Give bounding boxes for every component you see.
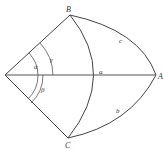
label-side-b: b [116, 107, 120, 115]
label-C: C [65, 141, 71, 150]
label-angle-alpha: α [34, 63, 38, 71]
side-b-arc [68, 75, 156, 138]
side-c-arc [70, 15, 156, 75]
label-side-c: c [119, 37, 123, 45]
label-angle-beta: β [40, 86, 45, 94]
angle-beta-arc-inner [28, 75, 38, 99]
label-A: A [157, 72, 163, 81]
spherical-triangle-diagram: B A C a b c α γ β [0, 0, 163, 151]
diagram-svg: B A C a b c α γ β [0, 0, 163, 151]
label-angle-gamma: γ [50, 56, 53, 64]
label-side-a: a [99, 68, 103, 76]
label-B: B [66, 5, 71, 14]
side-a-arc [68, 15, 94, 138]
